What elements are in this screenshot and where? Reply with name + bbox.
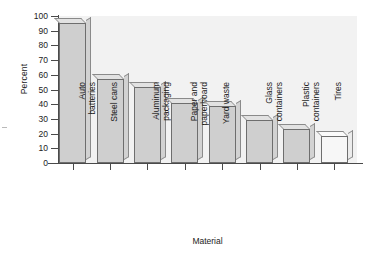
x-axis-tick bbox=[185, 164, 186, 170]
x-axis-category-label: Plastic containers bbox=[302, 82, 321, 174]
y-axis-tick bbox=[51, 104, 58, 105]
scan-artifact-mark bbox=[2, 127, 7, 128]
y-axis-tick-label: 90 bbox=[22, 27, 48, 36]
x-axis-tick bbox=[73, 164, 74, 170]
y-axis-tick-label: 30 bbox=[22, 115, 48, 124]
x-axis-category-label: Aluminum packaging bbox=[152, 82, 171, 174]
x-axis-tick bbox=[297, 164, 298, 170]
y-axis-tick-label: 100 bbox=[22, 12, 48, 21]
x-axis-tick bbox=[260, 164, 261, 170]
y-axis-tick bbox=[51, 16, 58, 17]
y-axis-tick-label: 50 bbox=[22, 86, 48, 95]
y-axis-tick-label: 40 bbox=[22, 100, 48, 109]
y-axis-tick-label: 70 bbox=[22, 56, 48, 65]
y-axis-tick bbox=[51, 31, 58, 32]
y-axis-tick bbox=[51, 163, 58, 164]
bar-side-face bbox=[124, 73, 129, 160]
y-axis-tick-label: 0 bbox=[22, 159, 48, 168]
bar-chart-figure: Percent 0102030405060708090100Auto batte… bbox=[0, 0, 376, 257]
x-axis-category-label: Glass containers bbox=[265, 82, 284, 174]
x-axis-category-label: Steel cans bbox=[110, 82, 120, 174]
y-axis-tick-label: 20 bbox=[22, 130, 48, 139]
x-axis-tick bbox=[147, 164, 148, 170]
x-axis-category-label: Paper and paperboard bbox=[190, 82, 209, 174]
y-axis-tick bbox=[51, 119, 58, 120]
y-axis-tick bbox=[51, 75, 58, 76]
x-axis-category-label: Tires bbox=[334, 82, 344, 174]
x-axis-title: Material bbox=[58, 236, 357, 246]
y-axis-tick-label: 10 bbox=[22, 144, 48, 153]
bar-side-face bbox=[236, 100, 241, 160]
y-axis-tick-label: 60 bbox=[22, 71, 48, 80]
x-axis-category-label: Yard waste bbox=[222, 82, 232, 174]
y-axis-tick-label: 80 bbox=[22, 41, 48, 50]
y-axis-tick bbox=[51, 134, 58, 135]
y-axis-tick bbox=[51, 90, 58, 91]
y-axis-tick bbox=[51, 45, 58, 46]
x-axis-category-label: Auto batteries bbox=[78, 82, 97, 174]
y-axis-tick bbox=[51, 60, 58, 61]
y-axis-tick bbox=[51, 148, 58, 149]
bar-side-face bbox=[348, 130, 353, 160]
